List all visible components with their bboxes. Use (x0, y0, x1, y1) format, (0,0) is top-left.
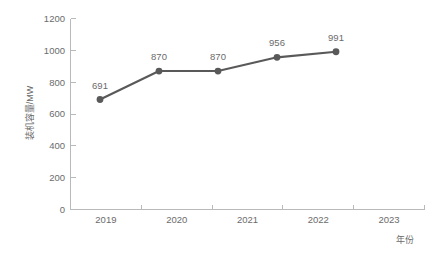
x-axis-title: 年份 (396, 234, 414, 245)
data-point-2020 (156, 68, 163, 75)
data-point-2021 (215, 68, 222, 75)
data-value-labels: 691870870956991 (92, 32, 344, 91)
x-axis-ticks (141, 205, 353, 210)
y-axis-ticks (71, 19, 76, 210)
y-axis-tick-labels: 0 200 400 600 800 1000 1200 (44, 13, 65, 215)
data-point-2019 (97, 96, 104, 103)
x-tick-label-2021: 2021 (237, 214, 258, 225)
data-label-2021: 870 (210, 51, 226, 62)
y-tick-label-800: 800 (49, 77, 65, 88)
data-label-2022: 956 (269, 37, 285, 48)
data-label-2023: 991 (328, 32, 344, 43)
data-label-2020: 870 (151, 51, 167, 62)
x-axis-tick-labels: 2019 2020 2021 2022 2023 (95, 214, 399, 225)
x-tick-label-2019: 2019 (95, 214, 116, 225)
y-tick-label-600: 600 (49, 108, 65, 119)
y-tick-label-200: 200 (49, 172, 65, 183)
y-tick-label-1200: 1200 (44, 13, 65, 24)
data-label-2019: 691 (92, 80, 108, 91)
y-tick-label-400: 400 (49, 140, 65, 151)
data-point-2023 (333, 48, 340, 55)
x-tick-label-2020: 2020 (166, 214, 187, 225)
x-tick-label-2023: 2023 (379, 214, 400, 225)
y-axis-title: 装机容量/MW (24, 85, 35, 140)
data-point-2022 (274, 54, 281, 61)
x-tick-label-2022: 2022 (308, 214, 329, 225)
y-tick-label-1000: 1000 (44, 45, 65, 56)
y-tick-label-0: 0 (60, 204, 65, 215)
line-chart: 0 200 400 600 800 1000 1200 2019 2020 20… (0, 0, 444, 255)
chart-canvas: 0 200 400 600 800 1000 1200 2019 2020 20… (0, 0, 444, 255)
